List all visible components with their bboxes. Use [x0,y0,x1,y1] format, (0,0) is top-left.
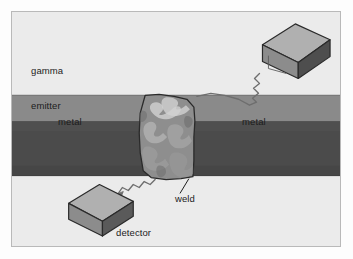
label-metal-right: metal [242,116,266,128]
figure-frame: gamma emitter metal metal weld detector [11,11,341,247]
label-gamma-emitter-line2: emitter [31,100,63,112]
label-metal-left: metal [58,116,82,128]
lower-gamma-ray [118,180,155,194]
weld-bead [139,94,195,179]
label-gamma-emitter-line1: gamma [31,65,63,77]
label-weld: weld [175,193,195,205]
weld-leader-line [180,179,189,194]
gamma-emitter-box [262,24,330,79]
label-detector: detector [116,227,151,239]
figure-container: gamma emitter metal metal weld detector [0,0,353,259]
